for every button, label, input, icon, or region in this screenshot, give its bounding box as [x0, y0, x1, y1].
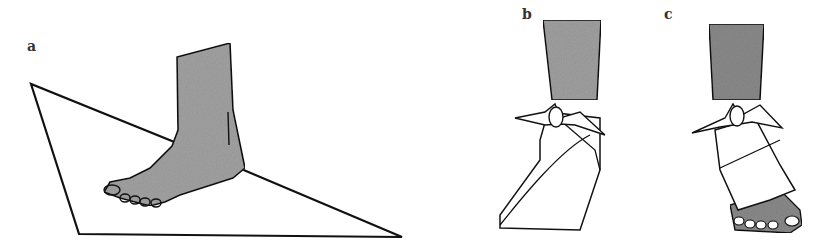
panel-label-b: b: [522, 6, 532, 22]
leg-c: [709, 24, 764, 100]
panel-a: [31, 43, 402, 237]
panel-c: [692, 24, 802, 233]
leg-b: [543, 20, 601, 100]
figure-canvas: [0, 0, 824, 248]
panel-label-c: c: [664, 6, 673, 22]
bandage-wrap-b: [500, 112, 600, 230]
panel-b: [500, 20, 605, 230]
panel-label-a: a: [27, 38, 36, 54]
foot-a: [104, 43, 245, 206]
